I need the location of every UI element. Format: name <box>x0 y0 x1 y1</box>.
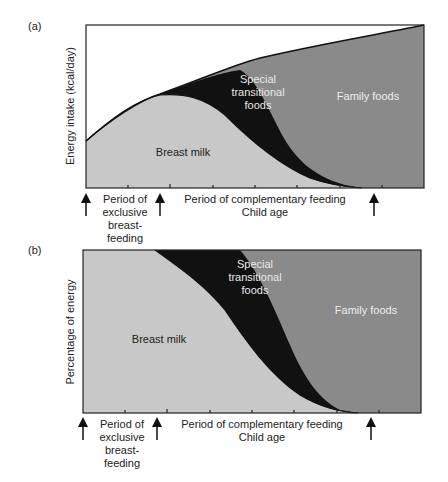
panel-a-transitional-line-2: transitional <box>218 86 298 99</box>
panel-b-label: (b) <box>28 244 41 256</box>
caption-line: breast-feeding <box>89 444 155 470</box>
caption-line: Period of complementary feeding <box>177 418 347 431</box>
panel-a-transitional-line-1: Special <box>218 73 298 86</box>
arrow-up-icon <box>81 193 91 216</box>
panel-a-complementary-caption: Period of complementary feeding Child ag… <box>180 193 350 219</box>
panel-a-breast-milk-label: Breast milk <box>148 146 218 159</box>
panel-b-exclusive-caption: Period of exclusive breast-feeding <box>89 418 155 470</box>
panel-b-breast-milk-label: Breast milk <box>124 333 194 346</box>
panel-b-transitional-line-2: transitional <box>215 271 295 284</box>
arrow-up-icon <box>369 193 379 216</box>
panel-b-complementary-caption: Period of complementary feeding Child ag… <box>177 418 347 444</box>
panel-b-family-foods-label: Family foods <box>324 304 408 317</box>
panel-a-transitional-line-3: foods <box>218 99 298 112</box>
x-axis-label: Child age <box>180 206 350 219</box>
caption-line: Period of <box>92 193 158 206</box>
panel-a-family-foods-label: Family foods <box>326 90 410 103</box>
caption-line: exclusive <box>89 431 155 444</box>
panel-b-transitional-line-1: Special <box>215 258 295 271</box>
panel-b-transitional-line-3: foods <box>215 284 295 297</box>
caption-line: breast-feeding <box>92 219 158 245</box>
panel-a-exclusive-caption: Period of exclusive breast-feeding <box>92 193 158 245</box>
caption-line: exclusive <box>92 206 158 219</box>
arrow-up-icon <box>78 417 88 440</box>
caption-line: Period of complementary feeding <box>180 193 350 206</box>
panel-a-transitional-label: Special transitional foods <box>218 73 298 112</box>
caption-line: Period of <box>89 418 155 431</box>
panel-b-transitional-label: Special transitional foods <box>215 258 295 297</box>
arrow-up-icon <box>366 417 376 440</box>
panel-b-y-axis-label: Percentage of energy <box>64 267 76 397</box>
x-axis-label: Child age <box>177 431 347 444</box>
